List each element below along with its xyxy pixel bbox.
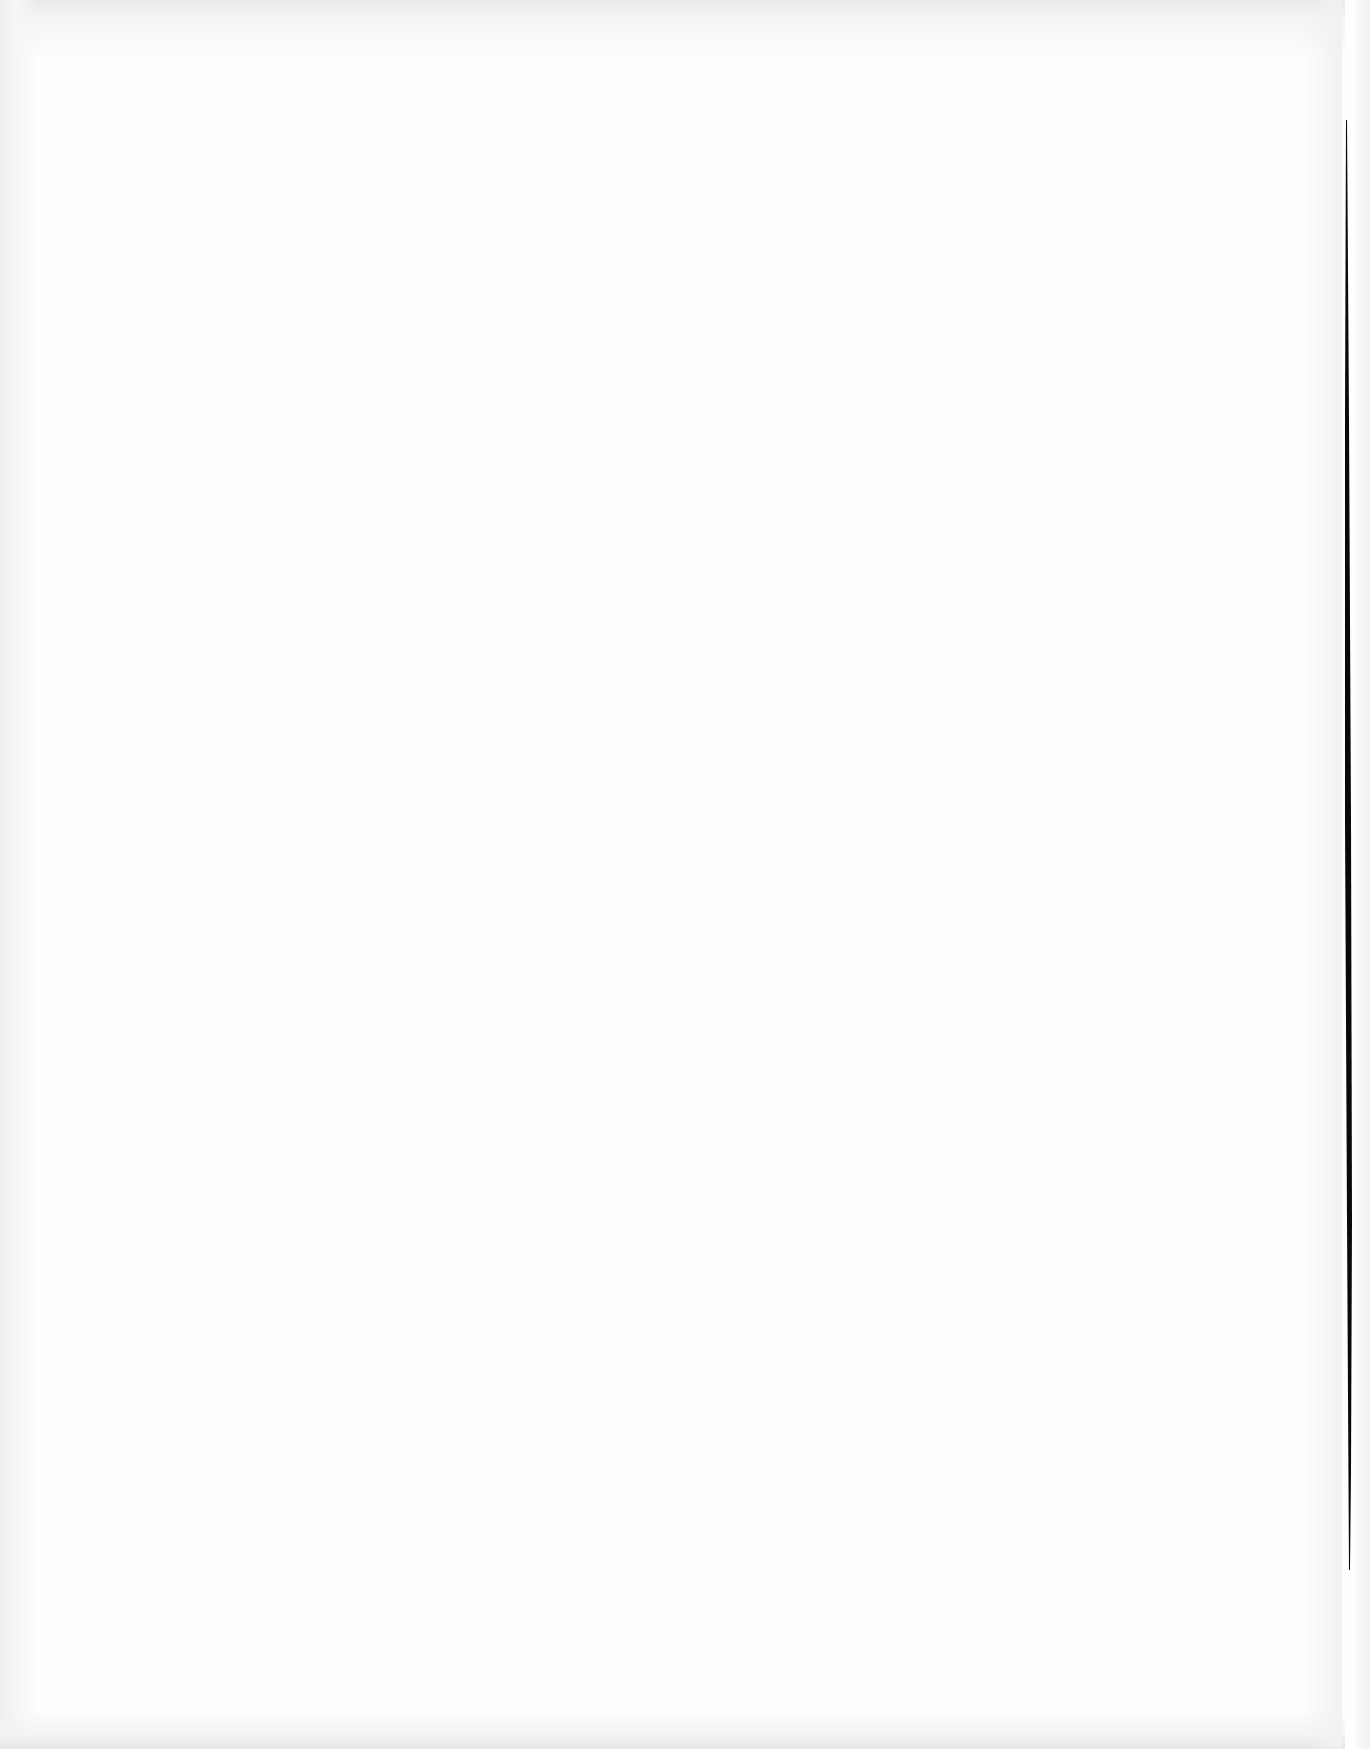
scan-shadow-bottom [0,1709,1345,1749]
scan-shadow-left [0,0,40,1749]
page-outer-margin [1356,0,1370,1749]
scan-shadow-top [0,0,1345,60]
scanned-page [0,0,1370,1749]
page-body [60,60,1310,1689]
binding-edge-line [1343,120,1353,1570]
